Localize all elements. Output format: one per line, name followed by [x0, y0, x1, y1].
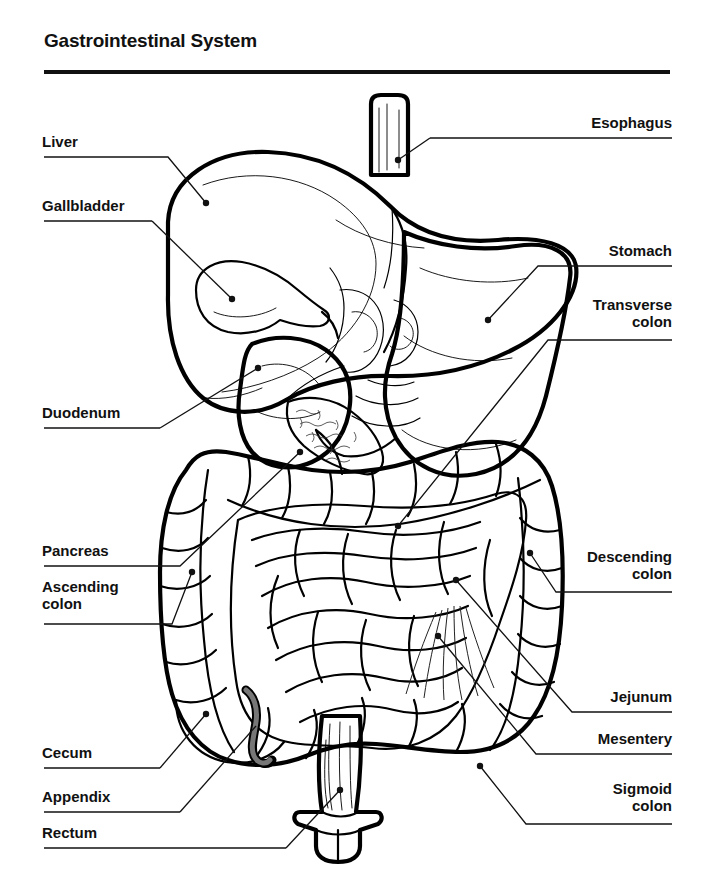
label-gallbladder[interactable]: Gallbladder — [42, 197, 125, 214]
duodenal-loop-detail — [326, 268, 420, 426]
label-pancreas[interactable]: Pancreas — [42, 542, 109, 559]
organ-liver — [168, 152, 576, 412]
organ-esophagus — [371, 95, 408, 175]
label-cecum-text: Cecum — [42, 744, 92, 761]
label-descending-colon[interactable]: Descending colon — [587, 548, 672, 582]
label-rectum[interactable]: Rectum — [42, 824, 97, 841]
leader-dot-rectum — [337, 787, 343, 793]
label-stomach-text: Stomach — [609, 242, 672, 259]
label-mesentery[interactable]: Mesentery — [598, 730, 672, 747]
organ-duodenum — [239, 338, 351, 474]
leader-dot-stomach — [485, 317, 491, 323]
leader-dot-pancreas — [297, 449, 303, 455]
label-transverse-colon-text-line2: colon — [593, 313, 672, 330]
leader-dot-duodenum — [255, 365, 261, 371]
leader-dot-esophagus — [395, 157, 401, 163]
label-appendix[interactable]: Appendix — [42, 788, 110, 805]
label-ascending-colon-text: Ascending — [42, 578, 119, 595]
label-jejunum[interactable]: Jejunum — [610, 688, 672, 705]
label-sigmoid-colon-text: Sigmoid — [613, 780, 672, 797]
leader-dot-cecum — [203, 711, 209, 717]
label-sigmoid-colon[interactable]: Sigmoid colon — [613, 780, 672, 814]
label-ascending-colon-text-line2: colon — [42, 595, 119, 612]
label-rectum-text: Rectum — [42, 824, 97, 841]
label-transverse-colon-text: Transverse — [593, 296, 672, 313]
label-appendix-text: Appendix — [42, 788, 110, 805]
label-liver-text: Liver — [42, 133, 78, 150]
label-jejunum-text: Jejunum — [610, 688, 672, 705]
leader-dot-mesentery — [435, 633, 441, 639]
label-ascending-colon[interactable]: Ascending colon — [42, 578, 119, 612]
diagram-page: Gastrointestinal System — [0, 0, 714, 896]
leader-dot-sigmoid-colon — [477, 763, 483, 769]
organ-gallbladder — [196, 261, 338, 338]
label-stomach[interactable]: Stomach — [609, 242, 672, 259]
organ-pancreas — [287, 398, 383, 474]
label-mesentery-text: Mesentery — [598, 730, 672, 747]
label-cecum[interactable]: Cecum — [42, 744, 92, 761]
label-descending-colon-text: Descending — [587, 548, 672, 565]
label-pancreas-text: Pancreas — [42, 542, 109, 559]
label-sigmoid-colon-text-line2: colon — [613, 797, 672, 814]
label-duodenum-text: Duodenum — [42, 404, 120, 421]
label-gallbladder-text: Gallbladder — [42, 197, 125, 214]
leader-dot-liver — [203, 200, 209, 206]
leader-dot-descending-colon — [527, 550, 533, 556]
organ-small-intestine — [231, 492, 526, 749]
gi-illustration — [0, 0, 714, 896]
organ-stomach — [316, 232, 570, 476]
label-esophagus-text: Esophagus — [591, 114, 672, 131]
leader-dot-ascending-colon — [189, 569, 195, 575]
leader-dot-gallbladder — [229, 296, 235, 302]
label-duodenum[interactable]: Duodenum — [42, 404, 120, 421]
leader-dot-transverse-colon — [395, 523, 401, 529]
mesentery-fan — [406, 606, 494, 700]
label-descending-colon-text-line2: colon — [587, 565, 672, 582]
label-transverse-colon[interactable]: Transverse colon — [593, 296, 672, 330]
label-liver[interactable]: Liver — [42, 133, 78, 150]
leader-dot-jejunum — [453, 577, 459, 583]
label-esophagus[interactable]: Esophagus — [591, 114, 672, 131]
